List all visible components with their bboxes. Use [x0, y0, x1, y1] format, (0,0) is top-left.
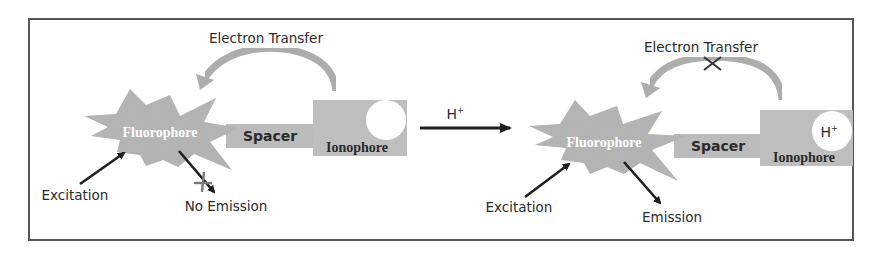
right-state: Electron Transfer Spacer H+ Ionophore Fl… [486, 39, 853, 225]
left-state: Electron Transfer Spacer Ionophore Fluor… [42, 30, 407, 214]
cross-mark-icon-emission [194, 172, 212, 192]
excitation-arrow-right [525, 164, 569, 197]
ionophore-label-right: Ionophore [773, 150, 835, 165]
electron-transfer-label-left: Electron Transfer [209, 30, 323, 46]
excitation-label-left: Excitation [42, 187, 109, 203]
bound-proton-charge: + [831, 124, 838, 133]
excitation-arrow-left [80, 153, 124, 184]
empty-receptor-site-icon [366, 100, 406, 140]
no-emission-label: No Emission [185, 198, 268, 214]
spacer-label-right: Spacer [691, 138, 745, 154]
proton-binding-transition: H+ [420, 106, 510, 128]
pet-sensor-diagram: Electron Transfer Spacer Ionophore Fluor… [0, 0, 882, 257]
electron-transfer-label-right: Electron Transfer [644, 39, 758, 55]
transition-label: H+ [446, 106, 463, 122]
proton-charge: + [457, 106, 464, 115]
proton-symbol: H [446, 106, 457, 122]
ionophore-label-left: Ionophore [326, 140, 388, 155]
fluorophore-label-right: Fluorophore [567, 135, 642, 150]
bound-proton-symbol: H [820, 124, 831, 140]
excitation-label-right: Excitation [486, 199, 553, 215]
fluorophore-label-left: Fluorophore [123, 125, 198, 140]
electron-transfer-arrow-left [196, 48, 336, 91]
spacer-label-left: Spacer [243, 128, 297, 144]
emission-label: Emission [642, 209, 702, 225]
